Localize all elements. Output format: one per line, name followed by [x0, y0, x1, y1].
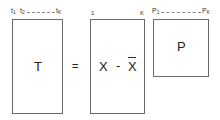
matrix-x-label: X [99, 60, 108, 73]
matrix-t-label: T [34, 60, 42, 73]
t-col-label-1-sub: 1 [13, 9, 16, 15]
t-col-label-2: t2 [20, 7, 25, 16]
x-col-label-k: K [140, 10, 144, 17]
p-col-label-k-sub: K [207, 9, 210, 15]
t-col-label-k: tK [56, 7, 61, 16]
t-col-label-2-sub: 2 [22, 9, 25, 15]
t-col-label-ellipsis [27, 12, 55, 13]
xbar-overbar [128, 57, 136, 58]
p-col-label-1-sub: 1 [157, 9, 160, 15]
p-col-label-1: P1 [152, 7, 159, 16]
minus-sign: - [116, 59, 120, 72]
matrix-p-label: P [177, 40, 186, 53]
x-col-label-1: 1 [91, 10, 94, 17]
p-col-label-k: PK [202, 7, 210, 16]
t-col-label-k-sub: K [58, 9, 61, 15]
matrix-xbar-label: X [128, 60, 137, 73]
p-col-label-ellipsis [161, 12, 201, 13]
equals-sign: = [72, 60, 78, 73]
t-col-label-1: t1 [11, 7, 16, 16]
